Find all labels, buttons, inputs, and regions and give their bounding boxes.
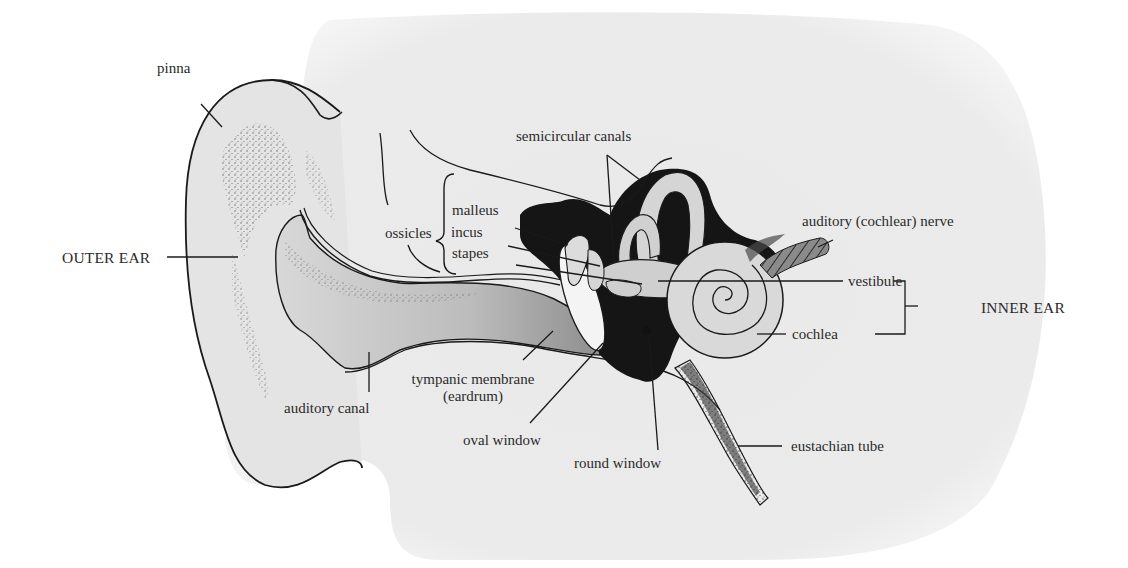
- label-tympanic-membrane-line1: tympanic membrane: [393, 371, 553, 388]
- label-round-window: round window: [574, 455, 661, 472]
- label-cochlea: cochlea: [792, 326, 838, 343]
- label-pinna: pinna: [157, 60, 190, 77]
- label-ossicles: ossicles: [385, 225, 432, 242]
- label-malleus: malleus: [452, 202, 499, 219]
- label-incus: incus: [451, 224, 483, 241]
- label-oval-window: oval window: [463, 432, 541, 449]
- label-outer-ear: OUTER EAR: [62, 249, 150, 266]
- label-semicircular-canals: semicircular canals: [516, 128, 631, 145]
- ear-anatomy-diagram: [0, 0, 1128, 568]
- label-vestibule: vestibule: [848, 273, 902, 290]
- label-inner-ear: INNER EAR: [981, 299, 1065, 316]
- label-tympanic-membrane: tympanic membrane (eardrum): [393, 371, 553, 405]
- label-auditory-canal: auditory canal: [284, 400, 369, 417]
- round-window: [643, 327, 651, 335]
- label-stapes: stapes: [452, 245, 489, 262]
- label-auditory-nerve: auditory (cochlear) nerve: [802, 213, 954, 230]
- label-eustachian-tube: eustachian tube: [791, 438, 884, 455]
- label-eardrum: (eardrum): [393, 388, 553, 405]
